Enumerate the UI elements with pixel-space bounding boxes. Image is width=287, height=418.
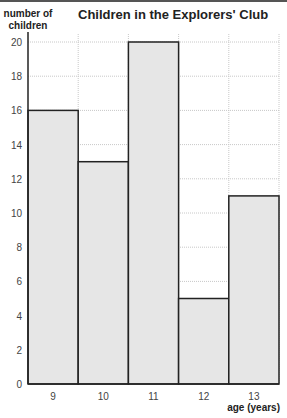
x-tick-label: 13 bbox=[248, 391, 260, 402]
bar-age-11 bbox=[128, 42, 178, 384]
y-tick-label: 12 bbox=[11, 174, 23, 185]
x-tick-label: 9 bbox=[50, 391, 56, 402]
y-tick-label: 14 bbox=[11, 140, 23, 151]
bar-age-10 bbox=[78, 162, 128, 384]
y-tick-label: 6 bbox=[16, 276, 22, 287]
histogram-plot: 02468101214161820910111213 bbox=[0, 0, 287, 418]
x-tick-label: 11 bbox=[148, 391, 159, 402]
y-tick-label: 18 bbox=[11, 71, 23, 82]
y-tick-label: 20 bbox=[11, 37, 23, 48]
x-tick-label: 12 bbox=[198, 391, 210, 402]
bar-age-9 bbox=[28, 110, 78, 384]
y-tick-label: 8 bbox=[16, 242, 22, 253]
y-tick-label: 10 bbox=[11, 208, 23, 219]
bar-age-12 bbox=[179, 299, 229, 385]
y-tick-label: 0 bbox=[16, 379, 22, 390]
y-tick-label: 2 bbox=[16, 345, 22, 356]
bar-age-13 bbox=[229, 196, 279, 384]
y-tick-label: 16 bbox=[11, 105, 23, 116]
x-tick-label: 10 bbox=[98, 391, 110, 402]
y-tick-label: 4 bbox=[16, 311, 22, 322]
